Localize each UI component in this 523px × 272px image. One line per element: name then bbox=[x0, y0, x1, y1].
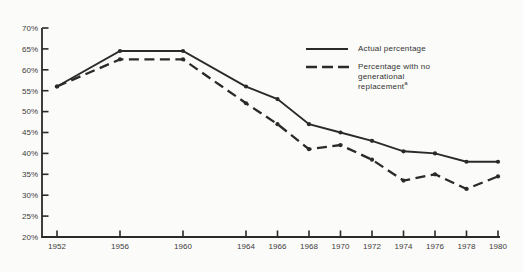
x-axis-tick-label: 1952 bbox=[48, 242, 66, 251]
legend-label-no-replacement-text: Percentage with no generational replacem… bbox=[358, 62, 430, 91]
data-point bbox=[338, 143, 342, 147]
solid-line-swatch bbox=[305, 46, 349, 52]
x-axis-tick-label: 1968 bbox=[300, 242, 318, 251]
data-point bbox=[55, 84, 59, 88]
x-axis-tick-label: 1974 bbox=[395, 242, 413, 251]
data-point bbox=[433, 172, 437, 176]
y-axis-tick-label: 45% bbox=[22, 128, 38, 137]
data-point bbox=[275, 97, 279, 101]
y-axis-tick-label: 65% bbox=[22, 45, 38, 54]
x-axis-tick-label: 1964 bbox=[237, 242, 255, 251]
footnote-marker: a bbox=[404, 80, 408, 86]
y-axis-tick-label: 50% bbox=[22, 107, 38, 116]
line-chart-canvas: 70%65%60%55%50%45%40%35%30%25%20%1952195… bbox=[0, 0, 523, 272]
data-point bbox=[275, 122, 279, 126]
data-point bbox=[464, 187, 468, 191]
data-point bbox=[307, 122, 311, 126]
x-axis-tick-label: 1970 bbox=[332, 242, 350, 251]
x-axis-tick-label: 1956 bbox=[111, 242, 129, 251]
data-point bbox=[401, 178, 405, 182]
data-point bbox=[244, 84, 248, 88]
y-axis-tick-label: 20% bbox=[22, 233, 38, 242]
y-axis-tick-label: 60% bbox=[22, 66, 38, 75]
data-point bbox=[370, 158, 374, 162]
data-point bbox=[464, 160, 468, 164]
data-point bbox=[433, 151, 437, 155]
y-axis-tick-label: 35% bbox=[22, 170, 38, 179]
y-axis-tick-label: 40% bbox=[22, 149, 38, 158]
legend-label-no-replacement: Percentage with no generational replacem… bbox=[358, 62, 442, 92]
data-point bbox=[181, 57, 185, 61]
legend-item-no-replacement: Percentage with no generational replacem… bbox=[305, 62, 442, 92]
x-axis-tick-label: 1972 bbox=[363, 242, 381, 251]
x-axis-tick-label: 1960 bbox=[174, 242, 192, 251]
data-point bbox=[181, 49, 185, 53]
data-point bbox=[401, 149, 405, 153]
data-point bbox=[307, 147, 311, 151]
x-axis-tick-label: 1980 bbox=[489, 242, 507, 251]
data-point bbox=[496, 160, 500, 164]
y-axis-tick-label: 70% bbox=[22, 24, 38, 33]
legend-label-actual: Actual percentage bbox=[358, 44, 426, 54]
legend-item-actual: Actual percentage bbox=[305, 44, 442, 54]
x-axis-tick-label: 1966 bbox=[269, 242, 287, 251]
data-point bbox=[118, 49, 122, 53]
chart-figure: 70%65%60%55%50%45%40%35%30%25%20%1952195… bbox=[0, 0, 523, 272]
data-point bbox=[370, 139, 374, 143]
y-axis-tick-label: 30% bbox=[22, 191, 38, 200]
y-axis-tick-label: 55% bbox=[22, 87, 38, 96]
x-axis-tick-label: 1978 bbox=[458, 242, 476, 251]
data-point bbox=[338, 130, 342, 134]
dashed-line-swatch bbox=[305, 64, 349, 70]
data-point bbox=[118, 57, 122, 61]
data-point bbox=[496, 174, 500, 178]
data-point bbox=[244, 101, 248, 105]
x-axis-tick-label: 1976 bbox=[426, 242, 444, 251]
chart-legend: Actual percentage Percentage with no gen… bbox=[305, 44, 442, 92]
y-axis-tick-label: 25% bbox=[22, 212, 38, 221]
